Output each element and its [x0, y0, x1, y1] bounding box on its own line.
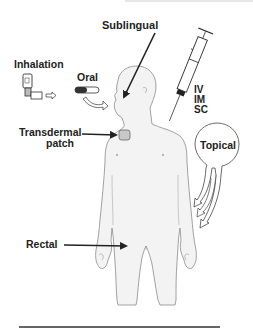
label-patch: patch — [46, 137, 74, 149]
transdermal-arrow — [82, 134, 116, 135]
pill-capsule-icon — [75, 87, 99, 93]
transdermal-patch-icon — [119, 130, 130, 140]
label-topical: Topical — [200, 139, 236, 151]
human-body — [96, 66, 197, 305]
inhalation-arrow-icon — [46, 92, 56, 99]
label-sublingual: Sublingual — [102, 19, 158, 31]
inhaler-icon — [23, 74, 42, 99]
label-rectal: Rectal — [26, 238, 58, 250]
label-oral: Oral — [77, 71, 98, 83]
drug-routes-diagram: Sublingual Inhalation Oral IV IM SC Tran… — [0, 0, 253, 328]
rectal-arrow — [64, 245, 126, 246]
oral-arrow-icon — [83, 97, 108, 110]
label-inhalation: Inhalation — [14, 58, 64, 70]
label-sc: SC — [194, 104, 208, 115]
